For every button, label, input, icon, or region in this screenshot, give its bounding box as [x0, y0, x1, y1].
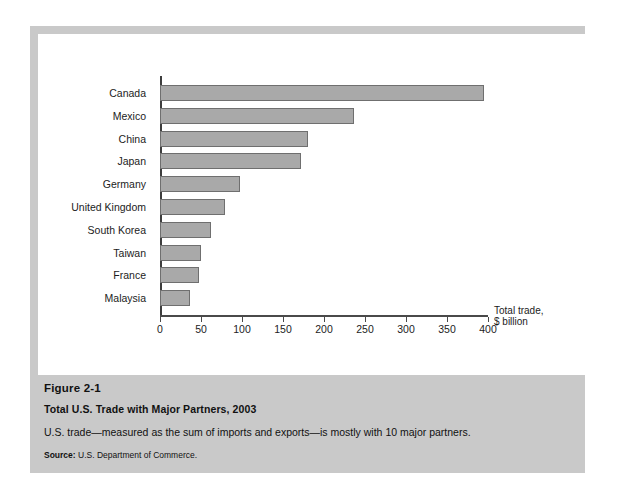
x-axis-caption-line-2: $ billion [494, 316, 543, 327]
bar-row [160, 150, 540, 173]
x-tick-label-150: 150 [274, 323, 292, 335]
category-axis-labels: CanadaMexicoChinaJapanGermanyUnited King… [38, 82, 152, 310]
category-label-taiwan: Taiwan [113, 242, 146, 265]
bar-row [160, 105, 540, 128]
category-label-france: France [113, 264, 146, 287]
x-tick-mark [160, 317, 161, 322]
x-axis-ticks: 050100150200250300350400 [160, 317, 490, 323]
bar-canada [160, 85, 484, 101]
category-label-canada: Canada [109, 82, 146, 105]
bar-row [160, 196, 540, 219]
bar-malaysia [160, 290, 190, 306]
x-tick-mark [488, 317, 489, 322]
figure-container: CanadaMexicoChinaJapanGermanyUnited King… [30, 26, 585, 473]
source-text: U.S. Department of Commerce. [78, 450, 197, 460]
bar-chart: CanadaMexicoChinaJapanGermanyUnited King… [38, 34, 586, 375]
figure-caption: Figure 2-1 Total U.S. Trade with Major P… [38, 382, 578, 466]
x-tick-label-0: 0 [157, 323, 163, 335]
bar-row [160, 128, 540, 151]
category-label-mexico: Mexico [113, 105, 146, 128]
bar-south-korea [160, 222, 211, 238]
x-tick-label-350: 350 [438, 323, 456, 335]
bar-mexico [160, 108, 354, 124]
source-label: Source: [44, 450, 76, 460]
x-tick-label-300: 300 [397, 323, 415, 335]
figure-description: U.S. trade—measured as the sum of import… [44, 426, 471, 438]
x-tick-mark [242, 317, 243, 322]
category-label-japan: Japan [117, 150, 146, 173]
bar-row [160, 264, 540, 287]
x-tick-mark [365, 317, 366, 322]
figure-source: Source: U.S. Department of Commerce. [44, 450, 197, 460]
bar-france [160, 267, 199, 283]
category-label-china: China [119, 128, 146, 151]
figure-number: Figure 2-1 [44, 382, 101, 394]
figure-title: Total U.S. Trade with Major Partners, 20… [44, 403, 256, 415]
bar-taiwan [160, 245, 201, 261]
x-tick-label-100: 100 [233, 323, 251, 335]
category-label-malaysia: Malaysia [105, 287, 146, 310]
x-tick-label-250: 250 [356, 323, 374, 335]
bar-germany [160, 176, 240, 192]
category-label-united-kingdom: United Kingdom [71, 196, 146, 219]
bar-row [160, 173, 540, 196]
x-tick-mark [324, 317, 325, 322]
bar-united-kingdom [160, 199, 225, 215]
x-tick-mark [201, 317, 202, 322]
bar-row [160, 287, 540, 310]
x-axis-caption-line-1: Total trade, [494, 305, 543, 316]
x-tick-mark [447, 317, 448, 322]
bar-row [160, 242, 540, 265]
x-tick-label-50: 50 [195, 323, 207, 335]
chart-panel: CanadaMexicoChinaJapanGermanyUnited King… [38, 34, 586, 375]
bar-row [160, 219, 540, 242]
bar-japan [160, 153, 301, 169]
x-tick-mark [406, 317, 407, 322]
bar-row [160, 82, 540, 105]
category-label-south-korea: South Korea [88, 219, 146, 242]
bars-container [160, 82, 540, 310]
category-label-germany: Germany [103, 173, 146, 196]
x-tick-mark [283, 317, 284, 322]
bar-china [160, 131, 308, 147]
x-tick-label-200: 200 [315, 323, 333, 335]
x-axis-caption: Total trade, $ billion [494, 305, 543, 327]
